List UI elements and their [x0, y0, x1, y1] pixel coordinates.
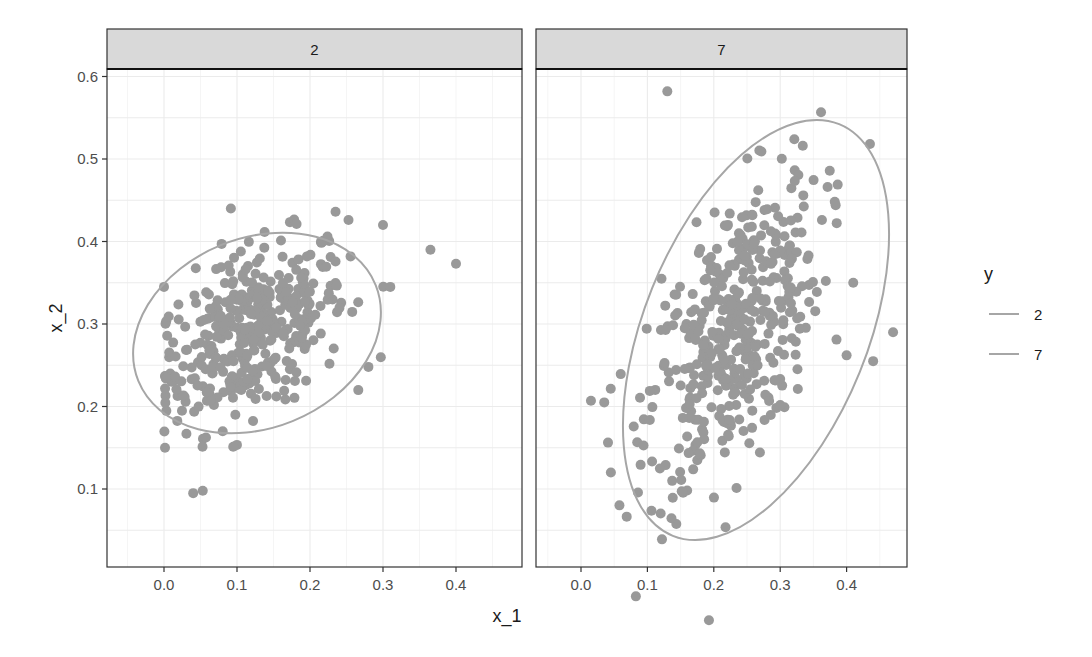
legend: y27 [984, 264, 1042, 363]
x-axis-label: x_1 [492, 606, 521, 627]
facet-panel-7: 70.00.10.20.30.4 [536, 29, 943, 625]
facet-strip-label: 7 [717, 41, 725, 58]
svg-text:0.1: 0.1 [227, 576, 248, 593]
facet-panel-2: 20.00.10.20.30.4 [103, 29, 522, 593]
svg-text:0.0: 0.0 [571, 576, 592, 593]
svg-text:0.3: 0.3 [77, 315, 98, 332]
svg-text:0.0: 0.0 [154, 576, 175, 593]
y-axis-label: x_2 [46, 303, 67, 332]
legend-entry-label: 7 [1034, 346, 1042, 363]
svg-text:0.5: 0.5 [77, 150, 98, 167]
svg-text:0.2: 0.2 [77, 398, 98, 415]
svg-text:0.3: 0.3 [770, 576, 791, 593]
x-axis-ticks: 0.00.10.20.30.4 [571, 567, 857, 593]
svg-text:0.2: 0.2 [703, 576, 724, 593]
legend-title: y [984, 264, 993, 284]
svg-text:0.1: 0.1 [77, 480, 98, 497]
svg-text:0.3: 0.3 [373, 576, 394, 593]
svg-text:0.2: 0.2 [300, 576, 321, 593]
x-axis-ticks: 0.00.10.20.30.4 [154, 567, 467, 593]
svg-text:0.1: 0.1 [637, 576, 658, 593]
facet-strip-label: 2 [310, 41, 318, 58]
y-axis-ticks: 0.10.20.30.40.50.6 [77, 68, 107, 498]
svg-text:0.4: 0.4 [446, 576, 467, 593]
svg-text:0.4: 0.4 [77, 233, 98, 250]
svg-text:0.6: 0.6 [77, 68, 98, 85]
svg-text:0.4: 0.4 [836, 576, 857, 593]
chart-canvas: 20.00.10.20.30.470.00.10.20.30.40.10.20.… [0, 0, 1092, 657]
legend-entry-label: 2 [1034, 306, 1042, 323]
